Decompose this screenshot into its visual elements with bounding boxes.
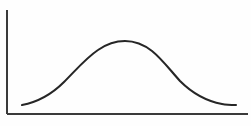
chart-canvas xyxy=(0,0,251,126)
bell-curve-figure: Line chart showing a smooth symmetric be… xyxy=(0,0,251,126)
chart-background xyxy=(0,0,251,126)
